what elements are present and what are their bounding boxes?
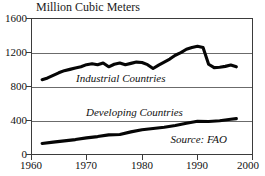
xtick-label-1970: 1970 (75, 159, 97, 171)
series-label-industrial: Industrial Countries (76, 72, 166, 84)
xtick-label-1990: 1990 (186, 159, 208, 171)
source-note: Source: FAO (170, 133, 227, 145)
ytick-label-1200: 1200 (5, 46, 27, 58)
xtick-label-2000: 2000 (237, 159, 259, 171)
chart-title: Million Cubic Meters (36, 0, 140, 15)
series-label-developing: Developing Countries (86, 106, 183, 118)
chart-container: Million Cubic Meters 1600 1200 800 400 0… (0, 0, 265, 176)
xtick-label-1960: 1960 (20, 159, 42, 171)
ytick-label-800: 800 (11, 80, 28, 92)
ytick-label-400: 400 (11, 114, 28, 126)
ytick-label-1600: 1600 (5, 12, 27, 24)
xtick-label-1980: 1980 (131, 159, 153, 171)
